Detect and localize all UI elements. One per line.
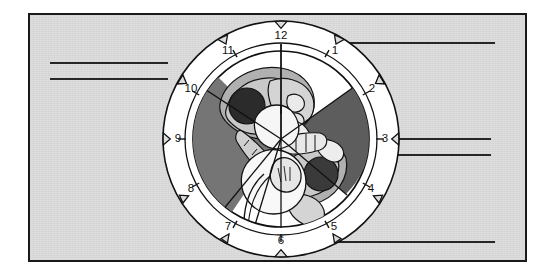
- hour-label-11: 11: [222, 44, 234, 56]
- answer-line-left-lower: [50, 78, 168, 80]
- hour-label-1: 1: [332, 44, 338, 56]
- hour-label-2: 2: [369, 82, 375, 94]
- hour-label-10: 10: [185, 82, 198, 94]
- hour-label-7: 7: [225, 220, 231, 232]
- hour-label-8: 8: [188, 182, 194, 194]
- hour-label-4: 4: [368, 182, 375, 194]
- hour-label-3: 3: [382, 132, 388, 144]
- hour-label-6: 6: [278, 234, 284, 246]
- clock-face-diagram: 121234567891011: [160, 18, 402, 260]
- figure-page: 121234567891011: [0, 0, 554, 277]
- hour-label-5: 5: [331, 220, 337, 232]
- hour-label-12: 12: [275, 29, 288, 41]
- answer-line-left-upper: [50, 62, 168, 64]
- hour-label-9: 9: [175, 132, 181, 144]
